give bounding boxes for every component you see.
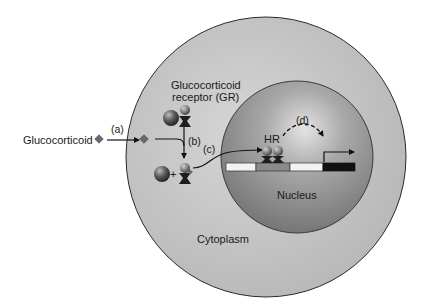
hsp-sphere-icon <box>154 166 170 182</box>
dna-strand <box>226 163 355 171</box>
dna-segment-1 <box>226 163 256 171</box>
step-c-label: (c) <box>203 143 215 155</box>
receptor-label-line1: Glucocorticoid <box>171 79 241 91</box>
step-a-label: (a) <box>111 123 124 135</box>
plus-sign: + <box>170 168 176 180</box>
hormone-diamond-outside-icon <box>95 135 103 143</box>
hr-label: HR <box>264 133 280 145</box>
dna-segment-3 <box>290 163 323 171</box>
glucocorticoid-label: Glucocorticoid <box>23 134 93 146</box>
nucleus-label: Nucleus <box>277 189 317 201</box>
step-b-label: (b) <box>188 135 201 147</box>
dna-gene <box>323 163 355 171</box>
nucleus <box>221 81 373 233</box>
glucocorticoid-signaling-diagram: Glucocorticoid (a) Glucocorticoid recept… <box>0 0 426 308</box>
cytoplasm-label: Cytoplasm <box>197 233 249 245</box>
receptor-label-line2: receptor (GR) <box>172 91 239 103</box>
step-d-label: (d) <box>296 114 309 126</box>
dna-response-element <box>256 163 290 171</box>
